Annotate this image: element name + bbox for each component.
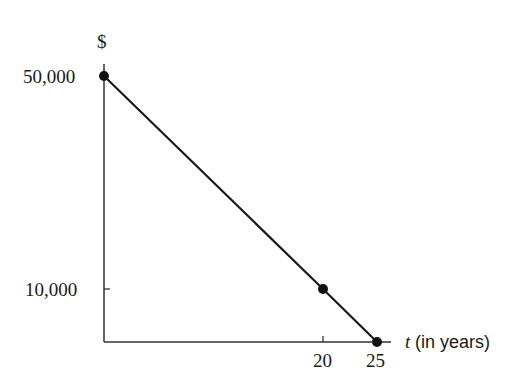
value-line	[104, 76, 377, 342]
data-point-25	[372, 337, 382, 347]
x-tick-label-25: 25	[366, 351, 385, 370]
x-axis-variable: t	[405, 331, 410, 352]
y-tick-label-10000: 10,000	[25, 280, 77, 299]
x-tick-label-20: 20	[313, 351, 332, 370]
y-tick-label-50000: 50,000	[23, 67, 75, 86]
y-axis-label: $	[97, 32, 107, 51]
x-axis-unit: (in years)	[415, 332, 490, 352]
data-point-20	[318, 284, 328, 294]
x-axis-label: t (in years)	[405, 332, 490, 351]
data-point-start	[99, 71, 109, 81]
